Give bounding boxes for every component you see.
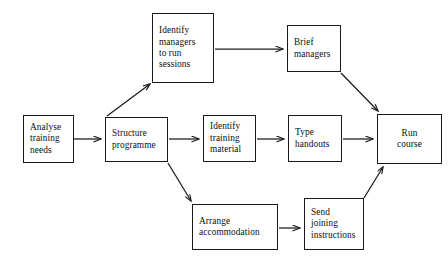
node-label: Brief managers: [294, 37, 330, 60]
node-brief-managers[interactable]: Brief managers: [287, 25, 341, 72]
node-identify-training-material[interactable]: Identify training material: [203, 115, 256, 162]
node-identify-managers-to-run-sessions[interactable]: Identify managers to run sessions: [152, 13, 214, 83]
node-label: Analyse training needs: [30, 122, 61, 156]
node-label: Send joining instructions: [311, 207, 356, 241]
flowchart-canvas: Analyse training needs Structure program…: [0, 0, 448, 261]
node-label: Type handouts: [295, 127, 329, 150]
node-label: Identify managers to run sessions: [159, 25, 195, 71]
node-label: Structure programme: [112, 128, 156, 151]
node-label: Run course: [397, 128, 422, 151]
node-arrange-accommodation[interactable]: Arrange accommodation: [192, 204, 278, 250]
node-run-course[interactable]: Run course: [377, 114, 442, 164]
edge-send-joining-to-run-course: [364, 167, 383, 198]
node-label: Identify training material: [210, 121, 241, 155]
node-label: Arrange accommodation: [199, 216, 260, 239]
edge-structure-to-identify-managers: [107, 84, 150, 116]
edge-brief-to-run-course: [341, 73, 378, 111]
node-send-joining-instructions[interactable]: Send joining instructions: [304, 198, 364, 250]
node-structure-programme[interactable]: Structure programme: [105, 117, 168, 162]
edge-structure-to-arrange-accommodation: [168, 163, 191, 201]
node-type-handouts[interactable]: Type handouts: [288, 115, 342, 162]
node-analyse-training-needs[interactable]: Analyse training needs: [23, 115, 74, 163]
